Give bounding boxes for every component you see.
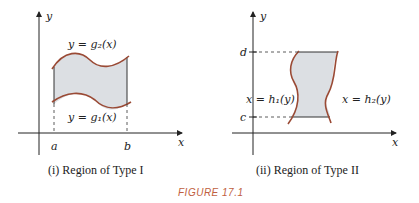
caption-type-2: (ii) Region of Type II [256,163,359,177]
panel-type-2: y x d c x = h₁(y) x = h₂(y) (ii) Region … [232,10,399,177]
tick-d: d [240,46,247,59]
label-h2: x = h₂(y) [342,93,391,106]
panel-type-1: y x a b y = g₂(x) y = g₁(x) (i) Region o… [18,10,185,177]
tick-b: b [124,140,131,153]
label-g2: y = g₂(x) [67,38,117,51]
x-axis-label: x [178,136,185,149]
y-axis-label: y [45,10,53,23]
figure-canvas: y x a b y = g₂(x) y = g₁(x) (i) Region o… [0,0,419,203]
y-axis-label: y [259,10,267,23]
figure-label: FIGURE 17.1 [178,187,244,198]
region-type-1 [54,53,127,109]
x-axis-label: x [392,136,399,149]
label-g1: y = g₁(x) [67,111,117,124]
caption-type-1: (i) Region of Type I [48,163,144,177]
tick-c: c [240,111,246,124]
label-h1: x = h₁(y) [246,93,295,106]
tick-a: a [51,140,58,153]
